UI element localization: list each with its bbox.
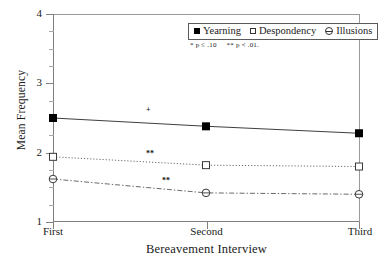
plot-top-spine bbox=[53, 14, 360, 15]
y-minor-tick-1-75 bbox=[49, 170, 54, 171]
figure: Mean Frequency 4 3 2 1 First Second Thir… bbox=[0, 0, 383, 265]
x-tick-label-second: Second bbox=[167, 226, 247, 237]
filled-square-icon bbox=[194, 28, 200, 34]
x-tick-label-third: Third bbox=[320, 226, 383, 237]
annotation-yearning: + bbox=[146, 106, 151, 114]
legend-item-yearning[interactable]: Yearning bbox=[194, 25, 241, 37]
legend-item-illusions[interactable]: Illusions bbox=[325, 25, 372, 37]
x-axis-title: Bereavement Interview bbox=[53, 242, 360, 257]
plot-right-spine bbox=[359, 14, 360, 222]
y-axis-title: Mean Frequency bbox=[15, 35, 27, 185]
y-minor-tick-2-25 bbox=[49, 135, 54, 136]
open-circle-dash-icon bbox=[325, 27, 333, 35]
y-minor-tick-3-25 bbox=[49, 66, 54, 67]
y-tick-label-2: 2 bbox=[12, 147, 42, 158]
y-tick-label-3: 3 bbox=[12, 77, 42, 88]
annotation-illusions: ** bbox=[162, 177, 170, 185]
legend[interactable]: Yearning Despondency Illusions bbox=[188, 23, 378, 40]
open-square-icon bbox=[250, 28, 256, 34]
y-minor-tick-3-75 bbox=[49, 31, 54, 32]
y-tick-label-4: 4 bbox=[12, 8, 42, 19]
y-tick-4 bbox=[46, 14, 54, 15]
legend-label-despondency: Despondency bbox=[259, 25, 316, 37]
significance-note: * p ≤ .10 ** p < .01. bbox=[190, 41, 267, 49]
y-minor-tick-2-5 bbox=[49, 118, 54, 119]
legend-label-illusions: Illusions bbox=[336, 25, 372, 37]
annotation-despondency: ** bbox=[146, 150, 154, 158]
legend-label-yearning: Yearning bbox=[203, 25, 241, 37]
y-minor-tick-3-5 bbox=[49, 49, 54, 50]
sig-note-p10: * p ≤ .10 bbox=[190, 41, 217, 49]
y-tick-3 bbox=[46, 83, 54, 84]
y-minor-tick-2-75 bbox=[49, 101, 54, 102]
y-minor-tick-1-25 bbox=[49, 205, 54, 206]
y-tick-2 bbox=[46, 153, 54, 154]
sig-note-p01: ** p < .01. bbox=[227, 41, 259, 49]
legend-item-despondency[interactable]: Despondency bbox=[250, 25, 316, 37]
y-minor-tick-1-5 bbox=[49, 187, 54, 188]
x-tick-label-first: First bbox=[13, 226, 93, 237]
